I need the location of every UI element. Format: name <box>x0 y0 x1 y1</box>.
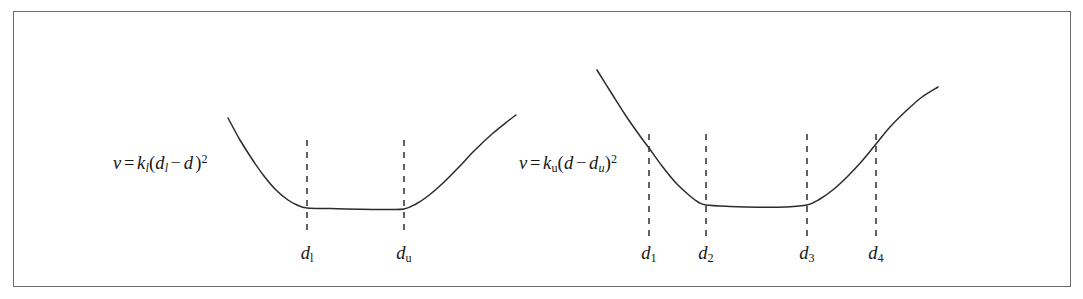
eq-left-minus: − <box>168 153 184 173</box>
eq-left-exponent: 2 <box>202 152 208 166</box>
left-upper-bound-equation: v=ku(d−du)2 <box>519 152 617 176</box>
right-tick-d2-base: d <box>698 243 707 263</box>
left-tick-du: du <box>396 243 411 266</box>
right-tick-d3: d3 <box>799 243 814 266</box>
eq-right-exponent: 2 <box>611 152 617 166</box>
left-tick-dl: dl <box>301 243 314 266</box>
right-tick-d1-subscript: 1 <box>651 251 657 265</box>
figure-border-frame <box>13 11 1071 287</box>
right-tick-d3-base: d <box>799 243 808 263</box>
right-tick-d4-subscript: 4 <box>878 251 884 265</box>
left-tick-du-subscript: u <box>406 251 412 265</box>
left-tick-dl-subscript: l <box>310 251 313 265</box>
right-tick-d4-base: d <box>868 243 877 263</box>
left-lower-bound-equation: v=kl(dl−d)2 <box>113 152 208 176</box>
eq-right-d-upper: d <box>589 153 598 173</box>
eq-left-d-lower: d <box>155 153 164 173</box>
right-tick-d2-subscript: 2 <box>708 251 714 265</box>
right-tick-d1-base: d <box>641 243 650 263</box>
figure-root: v=kl(dl−d)2 v=ku(d−du)2 dldud1d2d3d4 <box>0 0 1083 299</box>
left-tick-du-base: d <box>396 243 405 263</box>
eq-right-minus: − <box>573 153 589 173</box>
eq-left-equals: = <box>121 153 137 173</box>
eq-right-d: d <box>564 153 573 173</box>
right-tick-d1: d1 <box>641 243 656 266</box>
right-tick-d3-subscript: 3 <box>809 251 815 265</box>
left-tick-dl-base: d <box>301 243 310 263</box>
right-tick-d4: d4 <box>868 243 883 266</box>
right-tick-d2: d2 <box>698 243 713 266</box>
eq-left-close-paren: ) <box>193 153 201 173</box>
eq-left-d: d <box>184 153 193 173</box>
eq-right-equals: = <box>527 153 543 173</box>
